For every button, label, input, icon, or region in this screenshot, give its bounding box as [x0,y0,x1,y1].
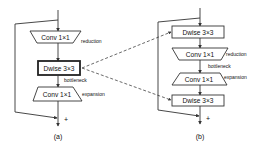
caption-b: (b) [196,133,205,141]
dwise-bottom-label-b: Dwise 3×3 [183,97,214,104]
bottleneck-annotation-b: bottleneck [208,63,231,69]
conv-reduction-label-b: Conv 1×1 [186,51,215,58]
conv-expansion-label-b: Conv 1×1 [185,76,214,83]
panel-b: Dwise 3×3 Conv 1×1 reduction bottleneck … [158,8,247,141]
panel-a: Conv 1×1 reduction Dwise 3×3 bottleneck … [15,10,105,141]
caption-a: (a) [54,133,63,141]
bottleneck-annotation-a: bottleneck [64,77,87,83]
conv-reduction-label-a: Conv 1×1 [41,34,70,41]
reduction-annotation-a: reduction [81,38,102,44]
dwise-label-a: Dwise 3×3 [44,65,75,72]
expansion-annotation-a: expansion [82,91,105,97]
sum-symbol-a: + [64,116,68,123]
sum-symbol-b: + [206,115,210,122]
diagram-canvas: Conv 1×1 reduction Dwise 3×3 bottleneck … [0,0,266,147]
conv-expansion-label-a: Conv 1×1 [43,91,72,98]
reduction-annotation-b: reduction [226,51,247,57]
expansion-annotation-b: expansion [224,74,247,80]
dwise-top-label-b: Dwise 3×3 [183,29,214,36]
